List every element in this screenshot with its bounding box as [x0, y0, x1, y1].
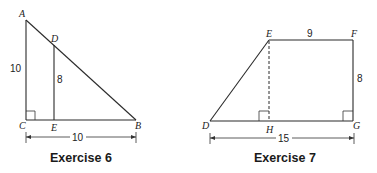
point-label-G: G: [353, 120, 360, 131]
right-angle-marker-C: [26, 111, 35, 120]
segment-DE: [210, 40, 269, 121]
right-angle-marker-H: [259, 111, 269, 121]
length-label-DG: 15: [278, 133, 290, 144]
point-label-D: D: [201, 120, 210, 131]
length-label-FG: 8: [357, 73, 363, 84]
segment-AB: [26, 20, 136, 120]
point-label-D: D: [50, 33, 59, 44]
length-label-CB: 10: [72, 132, 84, 143]
point-label-H: H: [265, 124, 274, 135]
length-label-DE: 8: [57, 74, 63, 85]
length-label-AC: 10: [10, 63, 22, 74]
length-label-EF: 9: [307, 28, 313, 39]
point-label-E: E: [50, 122, 57, 133]
exercise-7-caption: Exercise 7: [254, 151, 316, 165]
exercise-7-figure: E F D H G 9 8 15 Exercise 7: [201, 28, 363, 165]
point-label-F: F: [350, 28, 358, 39]
point-label-C: C: [19, 120, 26, 131]
exercise-6-figure: A D C E B 10 8 10 Exercise 6: [10, 8, 141, 165]
exercise-6-caption: Exercise 6: [50, 151, 112, 165]
point-label-B: B: [135, 120, 141, 131]
right-angle-marker-G: [343, 111, 353, 121]
point-label-E: E: [265, 28, 272, 39]
point-label-A: A: [18, 8, 26, 19]
diagram-canvas: A D C E B 10 8 10 Exercise 6 E F D H G 9: [0, 0, 377, 173]
